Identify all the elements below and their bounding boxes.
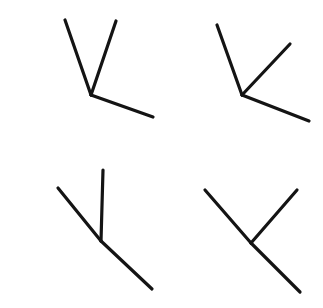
figure-sheet — [0, 0, 323, 308]
figure-bottom-left-vertical-arm — [101, 170, 103, 241]
line-figures-canvas — [0, 0, 323, 308]
canvas-background — [0, 0, 323, 308]
